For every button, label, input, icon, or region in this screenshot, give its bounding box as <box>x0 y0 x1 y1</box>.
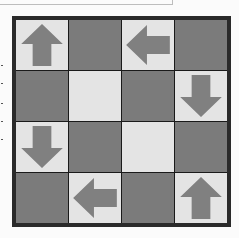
grid-cell-r3-c2[interactable] <box>122 173 174 223</box>
grid-cell-r0-c1[interactable] <box>69 20 121 70</box>
margin-mark <box>1 103 3 104</box>
grid-cell-r3-c1[interactable] <box>69 173 121 223</box>
puzzle-board <box>12 16 231 227</box>
margin-mark <box>1 139 3 140</box>
grid-cell-r0-c2[interactable] <box>122 20 174 70</box>
grid-cell-r0-c0[interactable] <box>16 20 68 70</box>
margin-mark <box>1 65 3 66</box>
top-divider-tick <box>172 0 173 5</box>
grid-cell-r2-c1[interactable] <box>69 122 121 172</box>
grid-cell-r1-c0[interactable] <box>16 71 68 121</box>
grid-cell-r3-c0[interactable] <box>16 173 68 223</box>
top-divider <box>0 4 172 5</box>
grid-cell-r1-c1[interactable] <box>69 71 121 121</box>
arrow-down-icon <box>16 122 68 172</box>
arrow-up-icon <box>16 20 68 70</box>
grid-cell-r1-c2[interactable] <box>122 71 174 121</box>
grid-cell-r2-c0[interactable] <box>16 122 68 172</box>
grid-cell-r2-c2[interactable] <box>122 122 174 172</box>
arrow-left-icon <box>69 173 121 223</box>
margin-mark <box>1 121 3 122</box>
puzzle-grid <box>16 20 227 223</box>
arrow-up-icon <box>175 173 227 223</box>
arrow-left-icon <box>122 20 174 70</box>
grid-cell-r3-c3[interactable] <box>175 173 227 223</box>
grid-cell-r2-c3[interactable] <box>175 122 227 172</box>
arrow-down-icon <box>175 71 227 121</box>
grid-cell-r1-c3[interactable] <box>175 71 227 121</box>
grid-cell-r0-c3[interactable] <box>175 20 227 70</box>
margin-mark <box>1 83 3 84</box>
